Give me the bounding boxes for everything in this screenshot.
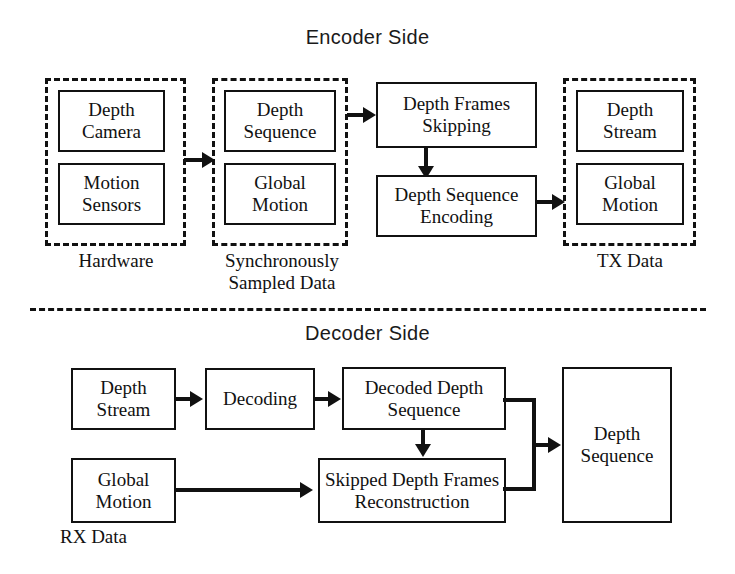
figure-canvas: Encoder Side Depth Camera Motion Sensors…	[0, 0, 735, 574]
box-skipped-depth-frames-reconstruction: Skipped Depth Frames Reconstruction	[318, 458, 506, 523]
group-label-sync-sampled-data: Synchronously Sampled Data	[198, 250, 366, 295]
arrow-decoded-to-reconstruction-head	[415, 444, 431, 457]
decoder-side-title: Decoder Side	[0, 322, 735, 345]
arrow-merge-to-depth-sequence-head	[548, 437, 561, 453]
arrow-depth-stream-to-decoding-head	[190, 391, 203, 407]
box-global-motion-sync: Global Motion	[224, 163, 336, 225]
box-depth-camera: Depth Camera	[58, 90, 165, 152]
box-decoding: Decoding	[205, 368, 315, 430]
box-depth-sequence-sync: Depth Sequence	[224, 90, 336, 152]
box-global-motion-tx: Global Motion	[576, 163, 684, 225]
box-depth-stream-tx: Depth Stream	[576, 90, 684, 152]
box-depth-stream-rx: Depth Stream	[71, 368, 176, 430]
arrow-decoding-to-decoded-head	[328, 391, 341, 407]
box-depth-sequence-encoding: Depth Sequence Encoding	[376, 175, 537, 237]
box-motion-sensors: Motion Sensors	[58, 163, 165, 225]
box-depth-frames-skipping: Depth Frames Skipping	[376, 82, 537, 148]
arrow-global-motion-to-reconstruction-head	[300, 482, 313, 498]
encoder-decoder-divider	[30, 308, 706, 311]
encoder-side-title: Encoder Side	[0, 26, 735, 49]
box-decoded-depth-sequence: Decoded Depth Sequence	[342, 367, 506, 430]
box-depth-sequence-output: Depth Sequence	[562, 367, 672, 523]
group-label-tx-data: TX Data	[549, 250, 711, 272]
arrow-hardware-to-sync-line	[184, 158, 204, 162]
arrow-sync-to-skipping-head	[363, 107, 376, 123]
label-rx-data: RX Data	[60, 526, 190, 548]
arrow-global-motion-to-reconstruction-line	[176, 488, 304, 492]
box-global-motion-rx: Global Motion	[71, 458, 176, 523]
group-label-hardware: Hardware	[35, 250, 197, 272]
